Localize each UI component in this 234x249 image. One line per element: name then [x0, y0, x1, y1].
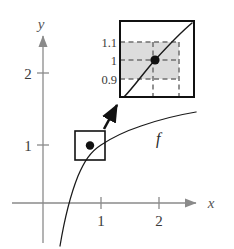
magnifier-arrow — [104, 105, 117, 129]
magnifier-arrow-group — [104, 105, 117, 129]
inset-tick-label-upper: 1.1 — [101, 36, 117, 50]
curve-label-f: f — [156, 130, 163, 148]
x-tick-label-2: 2 — [155, 213, 163, 229]
limit-figure-svg: y x 1 2 1 2 f — [0, 0, 234, 249]
x-axis-label: x — [207, 195, 215, 211]
inset-group: 1.1 1 0.9 — [101, 21, 194, 97]
y-axis-label: y — [36, 16, 45, 32]
inset-point-marker — [150, 55, 159, 64]
y-tick-label-2: 2 — [24, 66, 32, 82]
inset-tick-label-center: 1 — [111, 54, 117, 68]
inset-tick-label-lower: 0.9 — [101, 73, 117, 87]
x-tick-label-1: 1 — [97, 213, 105, 229]
function-curve-f — [60, 112, 196, 246]
point-marker-main — [86, 141, 94, 149]
figure-container: y x 1 2 1 2 f — [0, 0, 234, 249]
y-tick-label-1: 1 — [24, 138, 32, 154]
function-curve-group: f — [60, 112, 196, 246]
